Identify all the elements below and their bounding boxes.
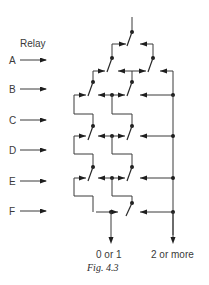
relay-input-a: A bbox=[9, 55, 46, 66]
relay-label-c: C bbox=[9, 115, 16, 126]
arrow-down-icon bbox=[109, 237, 114, 244]
output-label-0-or-1: 0 or 1 bbox=[96, 249, 122, 260]
relay-heading: Relay bbox=[20, 38, 46, 49]
relay-input-e: E bbox=[9, 176, 46, 187]
arrow-down-icon bbox=[171, 237, 176, 244]
contact-network bbox=[74, 17, 176, 244]
relay-input-c: C bbox=[9, 115, 46, 126]
relay-label-f: F bbox=[9, 206, 15, 217]
relay-label-d: D bbox=[9, 145, 16, 156]
figure-caption: Fig. 4.3 bbox=[86, 262, 118, 273]
output-label-2-or-more: 2 or more bbox=[151, 249, 194, 260]
relay-input-b: B bbox=[9, 84, 46, 95]
relay-input-f: F bbox=[9, 206, 46, 217]
relay-input-d: D bbox=[9, 145, 46, 156]
relay-label-b: B bbox=[9, 84, 16, 95]
switch-blade-a bbox=[127, 32, 132, 46]
relay-label-a: A bbox=[9, 55, 16, 66]
relay-tree-diagram: Relay A B C D E F bbox=[0, 0, 209, 285]
relay-label-e: E bbox=[9, 176, 16, 187]
